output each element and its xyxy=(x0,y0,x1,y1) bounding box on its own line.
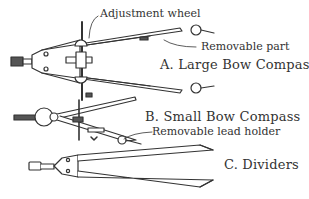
removable-lead-holder-label: Removable lead holder xyxy=(152,125,280,138)
dividers-drawing xyxy=(29,145,213,187)
small-bow-compass-drawing xyxy=(14,93,152,144)
large-bow-compass-title: A. Large Bow Compass xyxy=(160,57,309,72)
dividers-title: C. Dividers xyxy=(224,157,299,172)
adjustment-wheel-label: Adjustment wheel xyxy=(100,7,201,20)
removable-part-label: Removable part xyxy=(201,40,289,53)
small-bow-compass-title: B. Small Bow Compass xyxy=(145,109,300,124)
